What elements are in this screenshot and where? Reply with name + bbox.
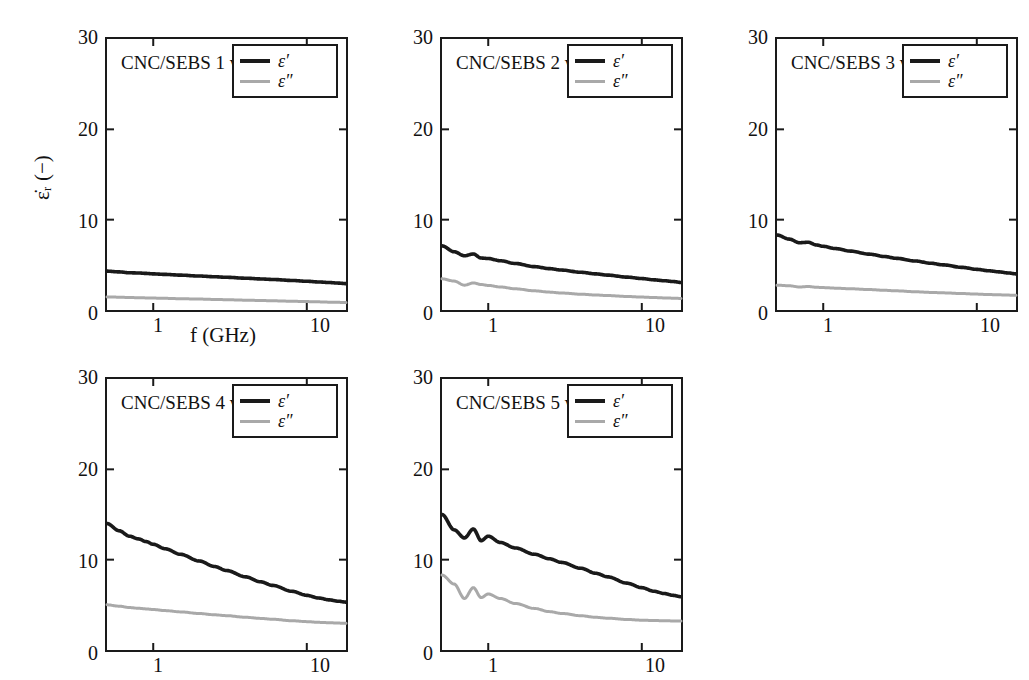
- x-tick-1: 1: [138, 655, 178, 675]
- legend: ε′ ε″: [567, 44, 673, 98]
- legend-label-edprime: ε″: [613, 412, 628, 430]
- y-tick-10: 10: [58, 211, 98, 231]
- legend: ε′ ε″: [232, 44, 338, 98]
- panel-cnc-sebs-3wt: 30 20 10 0 1 10 CNC/SEBS 3 wt% ε′ ε″: [670, 0, 1029, 340]
- legend-line-eprime-icon: [240, 399, 270, 403]
- panel-cnc-sebs-5wt: 30 20 10 0 1 10 CNC/SEBS 5 wt% ε′ ε″: [335, 340, 695, 680]
- figure-dielectric-permittivity-panels: ε̇ᵣ (−) f (GHz) 30 20 10 0 1 10 CNC/SEBS…: [0, 0, 1029, 680]
- legend-label-edprime: ε″: [948, 72, 963, 90]
- y-tick-30: 30: [393, 27, 433, 47]
- legend: ε′ ε″: [902, 44, 1008, 98]
- series-line-eprime: [107, 524, 346, 603]
- x-tick-10: 10: [635, 315, 675, 335]
- y-tick-20: 20: [58, 459, 98, 479]
- panel-cnc-sebs-2wt: 30 20 10 0 1 10 CNC/SEBS 2 wt% ε′ ε″: [335, 0, 695, 340]
- legend-label-eprime: ε′: [613, 392, 624, 410]
- y-tick-10: 10: [393, 551, 433, 571]
- legend-row-edprime: ε″: [575, 71, 664, 91]
- x-tick-1: 1: [473, 315, 513, 335]
- series-line-eprime: [777, 235, 1016, 274]
- y-tick-10: 10: [393, 211, 433, 231]
- series-line-edprime: [442, 575, 681, 621]
- legend-line-edprime-icon: [240, 420, 270, 423]
- y-tick-10: 10: [58, 551, 98, 571]
- y-tick-20: 20: [393, 459, 433, 479]
- y-tick-30: 30: [58, 27, 98, 47]
- panel-cnc-sebs-1wt: 30 20 10 0 1 10 CNC/SEBS 1 wt% ε′ ε″: [0, 0, 360, 340]
- series-line-edprime: [442, 279, 681, 299]
- panel-cnc-sebs-4wt: 30 20 10 0 1 10 CNC/SEBS 4 wt% ε′ ε″: [0, 340, 360, 680]
- y-tick-0: 0: [728, 303, 768, 323]
- y-tick-20: 20: [393, 119, 433, 139]
- y-tick-10: 10: [728, 211, 768, 231]
- y-tick-30: 30: [393, 367, 433, 387]
- y-tick-0: 0: [393, 303, 433, 323]
- legend-row-edprime: ε″: [240, 71, 329, 91]
- legend-line-edprime-icon: [575, 420, 605, 423]
- y-tick-30: 30: [58, 367, 98, 387]
- x-tick-1: 1: [473, 655, 513, 675]
- y-tick-30: 30: [728, 27, 768, 47]
- legend-row-eprime: ε′: [575, 391, 664, 411]
- x-tick-1: 1: [138, 315, 178, 335]
- y-tick-0: 0: [393, 643, 433, 663]
- series-line-eprime: [107, 271, 346, 283]
- legend-row-eprime: ε′: [240, 391, 329, 411]
- x-tick-10: 10: [300, 655, 340, 675]
- legend-line-eprime-icon: [910, 59, 940, 63]
- y-tick-20: 20: [58, 119, 98, 139]
- legend-row-eprime: ε′: [910, 51, 999, 71]
- x-tick-10: 10: [635, 655, 675, 675]
- legend-label-edprime: ε″: [613, 72, 628, 90]
- y-tick-0: 0: [58, 303, 98, 323]
- legend-label-edprime: ε″: [278, 72, 293, 90]
- legend-line-edprime-icon: [910, 80, 940, 83]
- legend-line-edprime-icon: [240, 80, 270, 83]
- x-tick-10: 10: [970, 315, 1010, 335]
- legend-row-edprime: ε″: [910, 71, 999, 91]
- x-tick-1: 1: [808, 315, 848, 335]
- legend-line-eprime-icon: [240, 59, 270, 63]
- series-line-eprime: [442, 246, 681, 283]
- legend-label-eprime: ε′: [278, 392, 289, 410]
- legend-label-eprime: ε′: [278, 52, 289, 70]
- series-line-edprime: [777, 285, 1016, 295]
- legend: ε′ ε″: [232, 384, 338, 438]
- x-tick-10: 10: [300, 315, 340, 335]
- y-tick-20: 20: [728, 119, 768, 139]
- legend-line-eprime-icon: [575, 59, 605, 63]
- legend-line-eprime-icon: [575, 399, 605, 403]
- legend-row-edprime: ε″: [240, 411, 329, 431]
- y-tick-0: 0: [58, 643, 98, 663]
- legend-row-eprime: ε′: [575, 51, 664, 71]
- legend-line-edprime-icon: [575, 80, 605, 83]
- legend-row-eprime: ε′: [240, 51, 329, 71]
- legend-row-edprime: ε″: [575, 411, 664, 431]
- legend: ε′ ε″: [567, 384, 673, 438]
- legend-label-eprime: ε′: [613, 52, 624, 70]
- series-line-edprime: [107, 297, 346, 303]
- legend-label-eprime: ε′: [948, 52, 959, 70]
- series-line-edprime: [107, 605, 346, 624]
- series-line-eprime: [442, 515, 681, 597]
- legend-label-edprime: ε″: [278, 412, 293, 430]
